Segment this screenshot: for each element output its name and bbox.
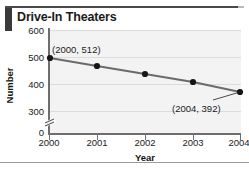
data-point-2001 [94, 63, 100, 69]
annotation-label-start: (2000, 512) [52, 44, 101, 55]
chart-figure: Drive-In Theaters 600 500 400 300 0 2000… [0, 0, 249, 169]
data-point-2000 [47, 55, 53, 61]
data-point-2004 [237, 89, 243, 95]
data-series-layer [0, 0, 249, 169]
data-point-2003 [190, 79, 196, 85]
y-axis-title: Number [4, 56, 15, 116]
annotation-label-end: (2004, 392) [172, 103, 221, 114]
bottom-divider [0, 162, 249, 163]
data-point-2002 [142, 71, 148, 77]
annotation-leader-line [213, 92, 240, 100]
